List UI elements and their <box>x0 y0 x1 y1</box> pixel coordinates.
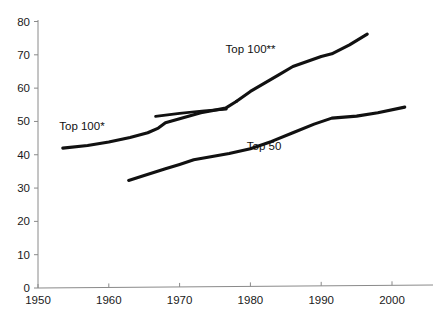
series-lines <box>63 34 405 180</box>
y-tick-label: 20 <box>17 215 30 227</box>
annotation-top-100: Top 100** <box>226 43 276 55</box>
y-tick-label: 40 <box>17 149 30 161</box>
x-tick-label: 2000 <box>379 294 405 306</box>
x-tick-label: 1970 <box>167 294 193 306</box>
x-tick-label: 1990 <box>308 294 334 306</box>
y-tick-label: 50 <box>17 115 30 127</box>
y-tick-label: 10 <box>17 249 30 261</box>
x-tick-label: 1980 <box>238 294 264 306</box>
series-annotations: Top 100*Top 100**Top 50 <box>59 43 281 152</box>
y-tick-label: 80 <box>17 16 30 28</box>
chart-canvas: 01020304050607080 1950196019701980199020… <box>0 0 437 317</box>
x-tick-label: 1950 <box>25 294 51 306</box>
y-tick-label: 70 <box>17 49 30 61</box>
line-chart: 01020304050607080 1950196019701980199020… <box>0 0 437 317</box>
x-tick-label: 1960 <box>96 294 122 306</box>
y-tick-label: 0 <box>24 282 30 294</box>
y-tick-label: 60 <box>17 82 30 94</box>
x-axis-ticks: 195019601970198019902000 <box>25 281 405 306</box>
y-axis-ticks: 01020304050607080 <box>17 16 38 295</box>
annotation-top-100: Top 100* <box>59 120 105 132</box>
x-axis-line <box>38 285 433 288</box>
y-tick-label: 30 <box>17 182 30 194</box>
annotation-top-50: Top 50 <box>247 140 282 152</box>
